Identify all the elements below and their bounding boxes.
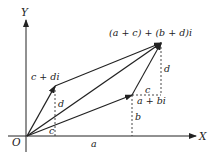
y-axis-label: Y xyxy=(21,6,29,18)
segment-label-c-upper: c xyxy=(145,84,151,95)
complex-addition-diagram: Y X O c + di a + bi (a + c) + (b + d)i a… xyxy=(0,0,218,158)
point-label-a-bi: a + bi xyxy=(137,95,166,106)
point-label-sum: (a + c) + (b + d)i xyxy=(109,27,192,38)
x-axis-label: X xyxy=(198,130,207,142)
segment-label-c-lower: c xyxy=(49,125,55,136)
point-label-c-di: c + di xyxy=(31,71,59,82)
segment-label-d-lower: d xyxy=(58,98,64,109)
segment-label-b: b xyxy=(135,111,141,122)
vector-a-bi xyxy=(27,95,132,136)
vector-sum xyxy=(27,43,161,136)
segment-label-d-upper: d xyxy=(164,63,170,74)
origin-label: O xyxy=(12,136,21,148)
segment-label-a: a xyxy=(91,138,97,149)
